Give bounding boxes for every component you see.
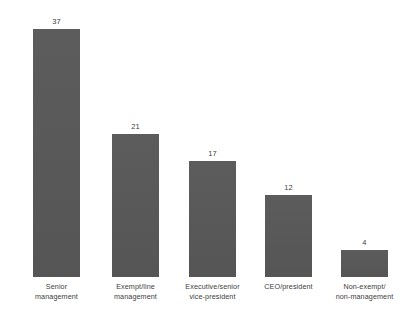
bar-group-3[interactable]: 12 <box>265 183 312 277</box>
bar-group-0[interactable]: 37 <box>33 17 80 277</box>
bar-group-2[interactable]: 17 <box>189 149 236 277</box>
bar-value-label-2: 17 <box>208 149 217 158</box>
bar-rect-1[interactable] <box>112 134 159 277</box>
bar-group-1[interactable]: 21 <box>112 122 159 277</box>
bar-category-line2-4: non-management <box>318 292 411 302</box>
bar-value-label-0: 37 <box>52 17 61 26</box>
plot-area: 37 Senior management 21 Exempt/line mana… <box>0 0 412 321</box>
bar-rect-4[interactable] <box>341 250 388 277</box>
bar-value-label-3: 12 <box>284 183 293 192</box>
bar-rect-2[interactable] <box>189 161 236 277</box>
bar-category-line1-4: Non-exempt/ <box>318 282 411 292</box>
bar-value-label-4: 4 <box>362 238 366 247</box>
bar-chart: 37 Senior management 21 Exempt/line mana… <box>0 0 412 321</box>
bar-group-4[interactable]: 4 <box>341 238 388 277</box>
bar-category-label-4: Non-exempt/ non-management <box>318 282 411 302</box>
bar-rect-0[interactable] <box>33 29 80 277</box>
bar-value-label-1: 21 <box>131 122 140 131</box>
bar-category-line2-2: vice-president <box>166 292 259 302</box>
bar-rect-3[interactable] <box>265 195 312 277</box>
